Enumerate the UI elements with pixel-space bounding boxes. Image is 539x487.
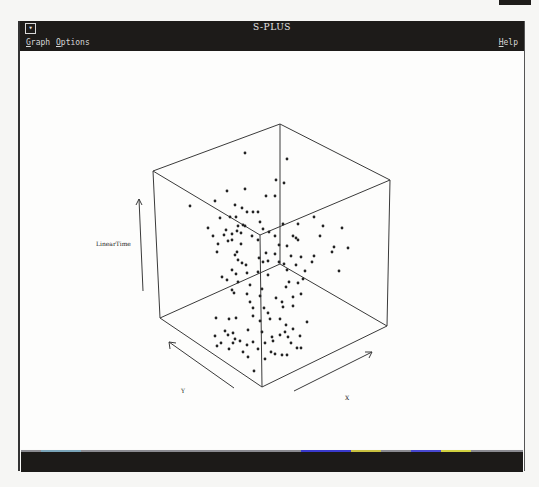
data-point [231, 269, 234, 272]
data-point [244, 152, 247, 155]
data-point [304, 270, 307, 273]
data-point [292, 328, 295, 331]
data-point [274, 235, 277, 238]
data-point [347, 247, 350, 250]
data-point [231, 289, 234, 292]
data-point [257, 271, 260, 274]
data-point [219, 217, 222, 220]
data-point [283, 263, 286, 266]
data-point [246, 344, 249, 347]
data-point [257, 239, 260, 242]
data-point [252, 307, 255, 310]
data-point [252, 211, 255, 214]
data-point [262, 261, 265, 264]
data-point [290, 255, 293, 258]
data-point [235, 216, 238, 219]
data-point [225, 229, 228, 232]
data-point [267, 260, 270, 263]
data-point [306, 321, 309, 324]
data-point [246, 211, 249, 214]
data-point [226, 279, 229, 282]
data-point [252, 315, 255, 318]
data-point [247, 329, 250, 332]
data-point [240, 232, 243, 235]
data-point [259, 295, 262, 298]
data-point [265, 195, 268, 198]
data-point [285, 286, 288, 289]
data-point [234, 204, 237, 207]
data-point [278, 261, 281, 264]
data-point [292, 305, 295, 308]
data-point [278, 244, 281, 247]
data-point [285, 324, 288, 327]
data-point [262, 228, 265, 231]
data-point [271, 336, 274, 339]
data-point [265, 252, 268, 255]
data-point [279, 334, 282, 337]
data-point [216, 251, 219, 254]
data-point [300, 347, 303, 350]
data-point [296, 347, 299, 350]
y-axis-arrow [169, 342, 234, 388]
data-point [270, 351, 273, 354]
status-stripe [301, 450, 351, 452]
data-point [241, 207, 244, 210]
data-point [232, 332, 235, 335]
data-point [261, 288, 264, 291]
data-point [282, 306, 285, 309]
data-point [214, 335, 217, 338]
data-point [226, 190, 229, 193]
data-point [274, 195, 277, 198]
data-point [286, 269, 289, 272]
data-point [295, 237, 298, 240]
3d-scatter-plot: LinearTime Y X [2, 0, 539, 487]
data-point [311, 261, 314, 264]
data-point [228, 348, 231, 351]
data-point [263, 307, 266, 310]
data-point [216, 345, 219, 348]
data-point [246, 272, 249, 275]
data-point [284, 331, 287, 334]
data-point [258, 257, 261, 260]
data-point [287, 336, 290, 339]
data-point [341, 227, 344, 230]
data-point [275, 179, 278, 182]
cube-frame [153, 124, 390, 387]
vertical-axis-label: LinearTime [96, 240, 131, 247]
data-point [227, 240, 230, 243]
data-point [221, 276, 224, 279]
data-point [249, 284, 252, 287]
data-point [234, 254, 237, 257]
graph-canvas[interactable]: LinearTime Y X [20, 51, 524, 449]
data-point [252, 341, 255, 344]
data-point [212, 235, 215, 238]
data-point [286, 245, 289, 248]
data-point [234, 338, 237, 341]
data-point [235, 273, 238, 276]
data-point [290, 342, 293, 345]
data-point [333, 246, 336, 249]
data-point [274, 253, 277, 256]
data-point [282, 223, 285, 226]
data-point [236, 251, 239, 254]
data-point [235, 317, 238, 320]
data-point [220, 342, 223, 345]
splus-window: ▾ S-PLUS Graph Options Help [18, 21, 525, 471]
data-point [288, 281, 291, 284]
data-point [292, 235, 295, 238]
data-point [302, 278, 305, 281]
x-axis-arrow [294, 352, 372, 391]
x-axis-label: X [345, 394, 350, 401]
data-point [286, 158, 289, 161]
data-point [279, 318, 282, 321]
data-point [313, 216, 316, 219]
data-point [228, 318, 231, 321]
status-stripe [351, 450, 381, 452]
data-point [251, 235, 254, 238]
data-point [242, 351, 245, 354]
data-point [331, 251, 334, 254]
data-point [268, 231, 271, 234]
data-point [264, 358, 267, 361]
data-point [283, 182, 286, 185]
data-point [319, 235, 322, 238]
